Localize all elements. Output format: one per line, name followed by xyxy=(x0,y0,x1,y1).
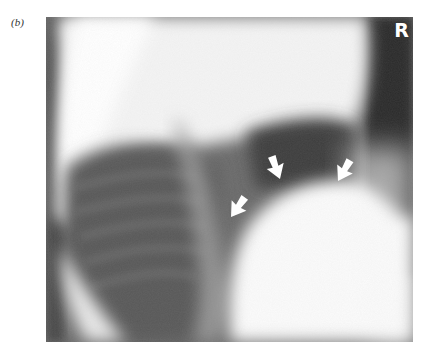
film-grain xyxy=(46,17,413,342)
side-marker-label: R xyxy=(394,19,409,41)
chest-xray-image: R xyxy=(46,17,413,342)
panel-label: (b) xyxy=(11,16,24,28)
xray-graphic xyxy=(46,17,413,342)
